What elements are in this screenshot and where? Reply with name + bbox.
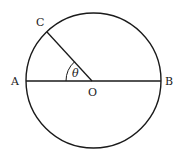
label-theta: θ [72, 67, 79, 80]
radius-oc [47, 32, 92, 81]
label-a: A [10, 75, 20, 88]
label-o: O [88, 86, 97, 99]
label-b: B [165, 75, 173, 88]
circle-diagram: A B C O θ [0, 0, 181, 154]
label-c: C [36, 16, 44, 29]
